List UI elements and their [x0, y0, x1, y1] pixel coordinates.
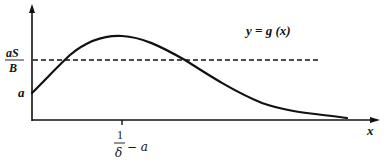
- curve-label: y = g (x): [244, 23, 291, 38]
- x-axis-label: x: [366, 123, 374, 138]
- function-graph: y = g (x) aS B a 1 δ − a x: [0, 0, 388, 163]
- curve-g-x: [32, 36, 347, 118]
- y-tick-lower-label: a: [18, 85, 25, 100]
- y-axis-arrow-icon: [29, 4, 35, 13]
- y-tick-upper-numerator: aS: [6, 46, 19, 60]
- x-tick-denominator: δ: [115, 146, 122, 160]
- y-tick-upper-denominator: B: [8, 61, 17, 75]
- x-tick-numerator: 1: [117, 128, 123, 142]
- x-tick-suffix: − a: [127, 140, 148, 154]
